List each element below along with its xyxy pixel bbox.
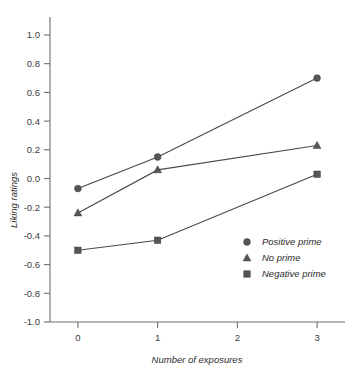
legend-item-label: Negative prime: [262, 268, 326, 279]
triangle-marker-icon: [74, 209, 82, 216]
square-marker-icon: [75, 247, 81, 253]
square-marker-icon: [244, 271, 250, 277]
y-axis-ticks: 1.00.80.60.40.20.0-0.2-0.4-0.6-0.8-1.0: [24, 29, 50, 327]
legend-item-label: Positive prime: [262, 236, 322, 247]
legend-item-label: No prime: [262, 252, 301, 263]
triangle-marker-icon: [243, 254, 251, 261]
circle-marker-icon: [244, 239, 251, 246]
y-tick-label: 0.0: [27, 173, 40, 184]
y-tick-label: 1.0: [27, 29, 40, 40]
y-tick-label: -0.8: [24, 288, 40, 299]
y-tick-label: 0.6: [27, 87, 40, 98]
chart-figure: 1.00.80.60.40.20.0-0.2-0.4-0.6-0.8-1.0 0…: [0, 0, 360, 376]
square-marker-icon: [314, 171, 320, 177]
y-tick-label: 0.4: [27, 116, 40, 127]
x-tick-label: 3: [314, 332, 319, 343]
series-line: [78, 145, 317, 212]
y-tick-label: 0.8: [27, 58, 40, 69]
circle-marker-icon: [154, 154, 161, 161]
line-chart: 1.00.80.60.40.20.0-0.2-0.4-0.6-0.8-1.0 0…: [0, 0, 360, 376]
circle-marker-icon: [314, 75, 321, 82]
y-tick-label: -1.0: [24, 316, 40, 327]
x-axis-title: Number of exposures: [152, 354, 243, 365]
series-lines-group: [78, 78, 317, 250]
square-marker-icon: [154, 237, 160, 243]
circle-marker-icon: [75, 185, 82, 192]
chart-legend: Positive primeNo primeNegative prime: [243, 236, 326, 279]
y-tick-label: -0.4: [24, 230, 40, 241]
x-tick-label: 1: [155, 332, 160, 343]
x-axis-ticks: 0123: [75, 322, 319, 343]
x-tick-label: 2: [235, 332, 240, 343]
series-line: [78, 78, 317, 188]
y-tick-label: 0.2: [27, 144, 40, 155]
y-tick-label: -0.6: [24, 259, 40, 270]
y-axis-title: Liking ratings: [8, 172, 19, 228]
y-tick-label: -0.2: [24, 202, 40, 213]
x-tick-label: 0: [75, 332, 80, 343]
triangle-marker-icon: [313, 141, 321, 148]
